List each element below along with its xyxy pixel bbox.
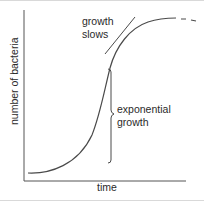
exponential-brace [108,69,114,163]
x-axis-label: time [97,181,117,193]
growth-curve-diagram: growth slows exponential growth time num… [0,0,204,201]
bottom-border [0,200,204,201]
exponential-growth-label-line2: growth [117,116,149,128]
exponential-growth-label-line1: exponential [117,103,171,115]
y-axis-label: number of bacteria [8,37,20,125]
growth-slows-label-line2: slows [82,28,108,40]
growth-curve [28,18,176,173]
growth-slows-label-line1: growth [82,15,114,27]
curve-continuation-dashes [181,19,196,21]
